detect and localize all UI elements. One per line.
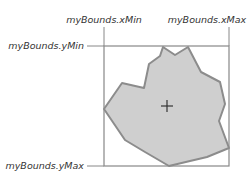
label-xmin: myBounds.xMin — [66, 14, 142, 25]
label-ymin: myBounds.yMin — [8, 40, 84, 51]
bounds-diagram: myBounds.xMin myBounds.xMax myBounds.yMi… — [0, 0, 252, 179]
label-xmax: myBounds.xMax — [168, 14, 247, 25]
label-ymax: myBounds.yMax — [5, 160, 84, 171]
